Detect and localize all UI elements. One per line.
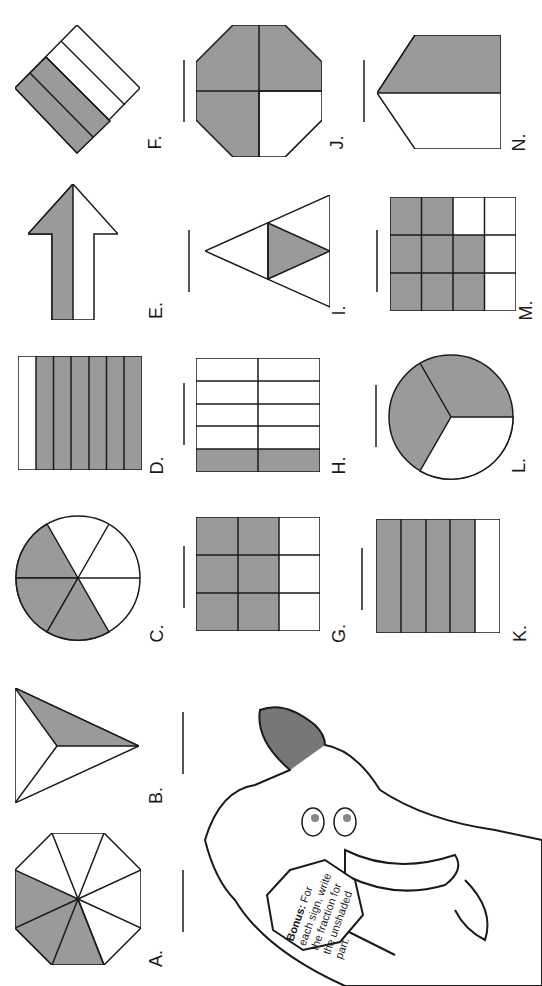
- label-e: E.: [146, 302, 167, 319]
- diamond-stripes-icon: [15, 25, 140, 155]
- answer-line-a[interactable]: [182, 870, 184, 932]
- octagon-eighths-icon: [15, 833, 141, 965]
- shape-c: [15, 513, 141, 643]
- octagon-quarters-icon: [196, 25, 322, 157]
- label-b: B.: [146, 787, 167, 804]
- answer-line-h[interactable]: [183, 383, 185, 445]
- label-h: H.: [329, 457, 350, 475]
- label-d: D.: [147, 457, 168, 475]
- answer-line-j[interactable]: [363, 60, 365, 122]
- grid-4x3-icon: [390, 197, 516, 311]
- rect-stripes-7-icon: [18, 356, 142, 470]
- shape-a: [15, 833, 141, 965]
- label-j: J.: [327, 135, 348, 149]
- triangle-fourths-icon: [205, 195, 330, 310]
- rect-stripes-5-icon: [376, 519, 500, 633]
- shape-n: [377, 35, 501, 149]
- label-a: A.: [146, 950, 167, 967]
- circle-sixths-icon: [15, 513, 141, 643]
- shape-h: [196, 358, 320, 472]
- shape-g: [196, 517, 320, 631]
- arrow-halves-icon: [28, 184, 118, 320]
- label-f: F.: [145, 135, 166, 149]
- shape-i: [205, 195, 330, 310]
- duck-mascot-icon: Bonus: For each sign, write the fraction…: [195, 680, 542, 986]
- shape-b: [15, 688, 139, 803]
- label-l: L.: [509, 458, 530, 473]
- circle-thirds-icon: [388, 352, 514, 482]
- label-m: M.: [516, 301, 537, 321]
- shape-k: [376, 519, 500, 633]
- shape-l: [388, 352, 514, 482]
- answer-line-i[interactable]: [376, 230, 378, 292]
- answer-line-l[interactable]: [375, 385, 377, 447]
- triangle-thirds-icon: [15, 688, 139, 803]
- shape-d: [18, 356, 142, 470]
- label-n: N.: [509, 134, 530, 152]
- label-k: K.: [510, 625, 531, 642]
- answer-line-e[interactable]: [188, 230, 190, 292]
- label-g: G.: [329, 624, 350, 643]
- grid-2x5-icon: [196, 358, 320, 472]
- shape-j: [196, 25, 322, 157]
- shape-e: [28, 184, 118, 320]
- answer-line-f[interactable]: [183, 60, 185, 122]
- answer-line-g[interactable]: [183, 546, 185, 608]
- label-i: I.: [329, 305, 350, 315]
- answer-line-b[interactable]: [182, 712, 184, 774]
- grid-3x3-icon: [196, 517, 320, 631]
- duck-illustration: Bonus: For each sign, write the fraction…: [195, 680, 542, 986]
- shape-f: [15, 25, 140, 155]
- shape-m: [390, 197, 516, 311]
- pentagon-halves-icon: [377, 35, 501, 149]
- label-c: C.: [147, 625, 168, 643]
- answer-line-k[interactable]: [361, 548, 363, 610]
